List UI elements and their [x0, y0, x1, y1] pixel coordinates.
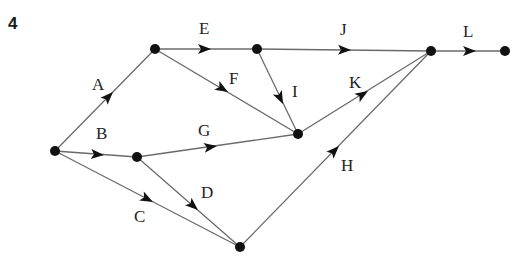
edge-label-A: A: [92, 75, 105, 94]
node-n8: [500, 46, 510, 56]
node-n5: [293, 129, 303, 139]
network-diagram: A B C D E F G H I J K L: [0, 0, 525, 271]
edge-E: [155, 44, 257, 54]
arrowhead-icon: [91, 149, 105, 160]
edge-label-G: G: [198, 121, 210, 140]
edge-F: [155, 49, 298, 134]
edge-label-I: I: [292, 82, 298, 101]
edge-label-J: J: [340, 20, 347, 39]
node-n2: [150, 44, 160, 54]
edge-J: [257, 45, 431, 55]
node-n4: [252, 44, 262, 54]
arrowhead-icon: [139, 192, 155, 207]
edge-label-F: F: [229, 69, 238, 88]
edge-label-H: H: [341, 156, 353, 175]
edge-H: [240, 51, 431, 247]
edge-label-D: D: [201, 183, 213, 202]
edge-B: [55, 149, 137, 160]
node-n3: [132, 152, 142, 162]
edge-K: [298, 51, 431, 134]
edge-L: [431, 46, 505, 56]
node-n1: [50, 146, 60, 156]
edge-G: [137, 134, 298, 157]
node-n6: [235, 242, 245, 252]
edge-label-B: B: [96, 124, 107, 143]
edge-label-C: C: [134, 207, 145, 226]
edge-label-E: E: [199, 19, 209, 38]
edge-label-K: K: [349, 73, 362, 92]
arrowhead-icon: [273, 90, 288, 106]
edge-label-L: L: [463, 22, 473, 41]
node-n7: [426, 46, 436, 56]
